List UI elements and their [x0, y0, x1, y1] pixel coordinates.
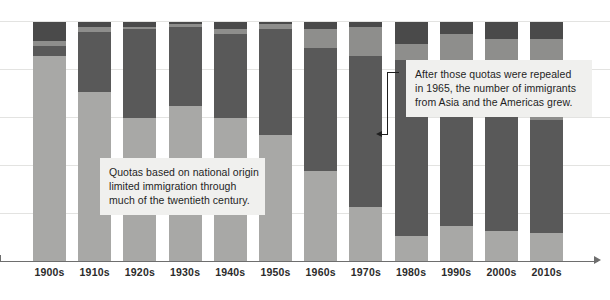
x-tick-1920s: 1920s: [114, 266, 166, 278]
annotation-quotas: Quotas based on national origin limited …: [100, 158, 265, 215]
bar-segment-other: [395, 22, 428, 44]
bar-1960s[interactable]: [304, 22, 337, 262]
annotation-quotas-line-2: limited immigration through: [109, 179, 256, 193]
x-axis-line: [0, 261, 598, 262]
bar-segment-europe: [395, 236, 428, 262]
bar-1970s[interactable]: [349, 22, 382, 262]
x-tick-1940s: 1940s: [204, 266, 256, 278]
bar-segment-other: [530, 22, 563, 39]
bar-segment-asia: [78, 32, 111, 92]
x-tick-1960s: 1960s: [295, 266, 347, 278]
bar-1900s[interactable]: [33, 22, 66, 262]
bar-segment-other: [214, 22, 247, 29]
bar-segment-other: [485, 22, 518, 39]
x-tick-1900s: 1900s: [24, 266, 76, 278]
bar-segment-europe: [33, 56, 66, 262]
bar-segment-asia: [530, 120, 563, 233]
bar-segment-europe: [485, 231, 518, 262]
bar-1910s[interactable]: [78, 22, 111, 262]
bar-1920s[interactable]: [123, 22, 156, 262]
annotation-quotas-line-1: Quotas based on national origin: [109, 165, 256, 179]
x-axis-start-tick: [0, 255, 1, 262]
bar-2000s[interactable]: [485, 22, 518, 262]
leader-arrowhead-icon: [376, 131, 382, 137]
bar-segment-europe: [349, 207, 382, 262]
annotation-repeal: After those quotas were repealed in 1965…: [406, 60, 592, 117]
bar-segment-asia: [33, 46, 66, 56]
bar-1990s[interactable]: [440, 22, 473, 262]
bar-segment-asia: [304, 48, 337, 170]
x-tick-2000s: 2000s: [476, 266, 528, 278]
bar-segment-europe: [440, 226, 473, 262]
x-tick-1980s: 1980s: [385, 266, 437, 278]
axis-arrow-right-icon: [594, 256, 601, 264]
bar-1940s[interactable]: [214, 22, 247, 262]
stacked-bar-chart: 1900s1910s1920s1930s1940s1950s1960s1970s…: [0, 0, 610, 300]
bar-segment-asia: [169, 27, 202, 106]
leader-elbow-top: [387, 72, 399, 73]
bar-segment-other: [304, 22, 337, 29]
bar-segment-europe: [304, 171, 337, 262]
x-tick-1930s: 1930s: [159, 266, 211, 278]
x-tick-1910s: 1910s: [69, 266, 121, 278]
bar-1950s[interactable]: [259, 22, 292, 262]
bar-segment-americas: [440, 34, 473, 63]
bar-segment-asia: [259, 29, 292, 135]
bar-segment-other: [440, 22, 473, 34]
bar-segment-americas: [304, 29, 337, 48]
bar-2010s[interactable]: [530, 22, 563, 262]
bar-segment-asia: [123, 29, 156, 118]
x-tick-1990s: 1990s: [430, 266, 482, 278]
x-tick-1950s: 1950s: [250, 266, 302, 278]
bar-segment-americas: [395, 44, 428, 61]
bar-segment-americas: [349, 27, 382, 56]
leader-elbow-bottom: [381, 134, 388, 135]
bar-segment-other: [33, 22, 66, 41]
bar-segment-asia: [485, 111, 518, 231]
x-tick-1970s: 1970s: [340, 266, 392, 278]
leader-stem: [387, 72, 388, 135]
bar-segment-asia: [214, 34, 247, 118]
annotation-repeal-line-1: After those quotas were repealed: [415, 67, 583, 81]
x-tick-2010s: 2010s: [521, 266, 573, 278]
annotation-repeal-line-3: from Asia and the Americas grew.: [415, 95, 583, 109]
annotation-quotas-line-3: much of the twentieth century.: [109, 193, 256, 207]
bar-1980s[interactable]: [395, 22, 428, 262]
plot-area: [0, 0, 610, 262]
annotation-repeal-line-2: in 1965, the number of immigrants: [415, 81, 583, 95]
bar-segment-europe: [530, 233, 563, 262]
bar-1930s[interactable]: [169, 22, 202, 262]
